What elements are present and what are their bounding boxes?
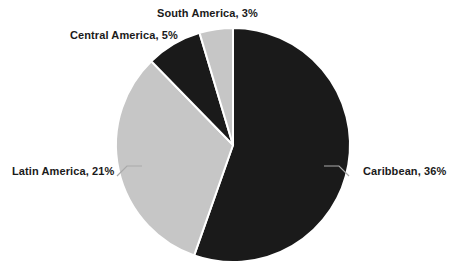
pie-chart-figure: South America, 3% Central America, 5% La… <box>0 0 467 274</box>
pie-label-central-america: Central America, 5% <box>70 29 178 42</box>
pie-label-caribbean: Caribbean, 36% <box>363 165 446 178</box>
pie-label-latin-america: Latin America, 21% <box>12 165 114 178</box>
pie-label-south-america: South America, 3% <box>157 7 258 20</box>
